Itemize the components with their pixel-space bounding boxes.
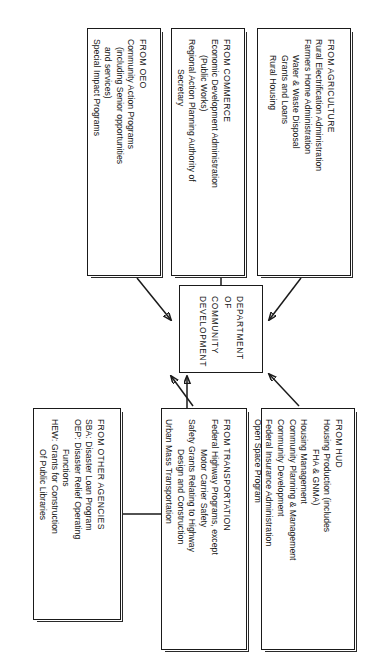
list-item: Of Public Libraries (36, 419, 48, 619)
box-agriculture[interactable]: FROM AGRICULTURE Rural Electrification A… (257, 28, 351, 276)
list-item: (Public Works) (197, 39, 209, 275)
list-item: Community Action Programs (125, 39, 137, 275)
box-transportation-header: FROM TRANSPORTATION (220, 419, 232, 649)
list-item: Motor Carrier Safety (197, 419, 209, 649)
diagram-stage: FROM AGRICULTURE Rural Electrification A… (0, 0, 373, 666)
list-item: Design and Construction (174, 419, 186, 649)
box-other-agencies[interactable]: FROM OTHER AGENCIES SBA: Disaster Loan P… (33, 408, 121, 620)
list-item: Federal Insurance Administration (263, 419, 275, 649)
box-oeo-list: Community Action Programs (including Sen… (90, 39, 136, 275)
center-line-3: COMMUNITY (209, 296, 221, 367)
list-item: Rural Housing (266, 39, 278, 275)
list-item: Regional Action Planning Authority of (186, 39, 198, 275)
box-agriculture-list: Rural Electrification Administration Far… (266, 39, 324, 275)
diagram-canvas: FROM AGRICULTURE Rural Electrification A… (0, 0, 373, 666)
list-item: FHA & GNMA) (309, 419, 321, 649)
box-hud-list: Housing Production (includes FHA & GNMA)… (251, 419, 332, 649)
list-item: Housing Management (298, 419, 310, 649)
list-item: Federal Highway Programs, except (209, 419, 221, 649)
box-commerce[interactable]: FROM COMMERCE Economic Development Admin… (171, 28, 245, 276)
box-oeo-header: FROM OEO (136, 39, 148, 275)
list-item: Rural Electrification Administration (313, 39, 325, 275)
box-agriculture-header: FROM AGRICULTURE (324, 39, 336, 275)
connector-hud-to-center (269, 374, 299, 406)
list-item: (including Senior opportunities (113, 39, 125, 275)
list-item: Economic Development Administration (209, 39, 221, 275)
connector-agriculture-to-center (269, 278, 301, 320)
center-line-1: DEPARTMENT (234, 296, 246, 367)
box-transportation[interactable]: FROM TRANSPORTATION Federal Highway Prog… (161, 408, 247, 650)
list-item: Secretary (174, 39, 186, 275)
list-item: Special Impact Programs (90, 39, 102, 275)
connector-oeo-to-center (137, 278, 171, 320)
center-line-4: DEVELOPMENT (196, 296, 208, 367)
list-item: Grants and Loans (278, 39, 290, 275)
list-item: SBA: Disaster Loan Program (83, 419, 95, 619)
center-line-2: OF (221, 296, 233, 367)
list-item: Community Planning & Management (286, 419, 298, 649)
connector-transportation-to-center (171, 376, 193, 406)
box-hud[interactable]: FROM HUD Housing Production (includes FH… (261, 408, 355, 650)
center-box-text: DEPARTMENT OF COMMUNITY DEVELOPMENT (196, 296, 246, 367)
box-other-agencies-header: FROM OTHER AGENCIES (94, 419, 106, 619)
box-oeo[interactable]: FROM OEO Community Action Programs (incl… (87, 28, 161, 276)
list-item: OEP: Disaster Relief Operating (71, 419, 83, 619)
box-transportation-list: Federal Highway Programs, except Motor C… (162, 419, 220, 649)
box-commerce-header: FROM COMMERCE (220, 39, 232, 275)
box-department-of-community-development[interactable]: DEPARTMENT OF COMMUNITY DEVELOPMENT (179, 285, 263, 373)
list-item: Water & Waste Disposal (290, 39, 302, 275)
list-item: Farmers Home Administration (301, 39, 313, 275)
list-item: Safety Grants Relating to Highway (186, 419, 198, 649)
list-item: Open Space Program (251, 419, 263, 649)
list-item: HEW: Grants for Construction (48, 419, 60, 619)
list-item: and services) (102, 39, 114, 275)
box-hud-header: FROM HUD (332, 419, 344, 649)
box-commerce-list: Economic Development Administration (Pub… (174, 39, 220, 275)
list-item: Urban Mass Transportation (162, 419, 174, 649)
list-item: Functions (60, 419, 72, 619)
box-other-agencies-list: SBA: Disaster Loan Program OEP: Disaster… (36, 419, 94, 619)
list-item: Housing Production (includes (321, 419, 333, 649)
list-item: Community Development (274, 419, 286, 649)
